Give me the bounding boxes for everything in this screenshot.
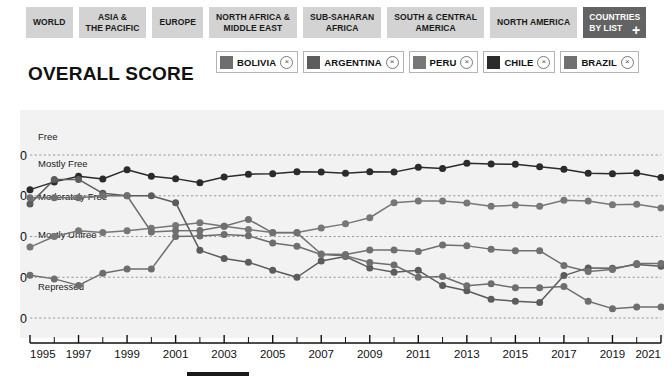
data-point [366, 214, 373, 221]
legend-country-label: PERU [430, 57, 457, 68]
band-label-free: Free [38, 131, 58, 142]
plus-icon[interactable]: + [632, 24, 640, 36]
data-point [391, 199, 398, 206]
data-point [293, 229, 300, 236]
y-tick-label: 50 [20, 271, 27, 285]
close-icon[interactable]: × [537, 56, 550, 69]
data-point [609, 170, 616, 177]
x-tick-label: 2021 [635, 348, 661, 360]
legend-color-swatch [413, 56, 426, 69]
data-point [585, 298, 592, 305]
data-point [124, 166, 131, 173]
data-point [585, 170, 592, 177]
data-point [51, 233, 58, 240]
legend-chip-chile[interactable]: CHILE× [483, 51, 555, 73]
data-point [512, 247, 519, 254]
y-tick-label: 70 [20, 189, 27, 203]
region-tab-label-line1: WORLD [33, 17, 66, 28]
data-point [75, 194, 82, 201]
region-tab-bar: WORLDASIA &THE PACIFICEUROPENORTH AFRICA… [26, 7, 646, 38]
x-tick-label: 2009 [357, 348, 383, 360]
data-point [536, 163, 543, 170]
data-point [366, 168, 373, 175]
data-point [172, 175, 179, 182]
data-point [536, 203, 543, 210]
x-tick-label: 1997 [66, 348, 92, 360]
data-point [99, 270, 106, 277]
series-peru [27, 197, 665, 251]
close-icon[interactable]: × [621, 56, 634, 69]
data-point [609, 266, 616, 273]
region-tab-label-line1: COUNTRIES [589, 12, 640, 23]
data-point [124, 266, 131, 273]
close-icon[interactable]: × [280, 56, 293, 69]
series-line [30, 196, 661, 272]
data-point [172, 227, 179, 234]
data-point [269, 229, 276, 236]
data-point [439, 198, 446, 205]
region-tab-world[interactable]: WORLD [26, 7, 73, 38]
data-point [75, 282, 82, 289]
close-icon[interactable]: × [460, 56, 473, 69]
data-point [293, 168, 300, 175]
data-point [439, 242, 446, 249]
region-tab-countries-by-list[interactable]: COUNTRIESBY LIST+ [583, 7, 646, 38]
legend-country-label: BRAZIL [581, 57, 616, 68]
data-point [245, 259, 252, 266]
data-point [366, 246, 373, 253]
data-point [245, 232, 252, 239]
data-point [124, 227, 131, 234]
legend-chip-peru[interactable]: PERU× [409, 51, 479, 73]
data-point [148, 229, 155, 236]
legend-color-swatch [487, 56, 500, 69]
data-point [415, 274, 422, 281]
data-point [318, 169, 325, 176]
data-point [488, 160, 495, 167]
data-point [318, 257, 325, 264]
data-point [27, 194, 34, 201]
region-tab-europe[interactable]: EUROPE [152, 7, 203, 38]
x-tick-label: 2001 [163, 348, 189, 360]
legend-country-label: CHILE [504, 57, 533, 68]
data-point [148, 266, 155, 273]
data-point [512, 161, 519, 168]
legend-chip-bolivia[interactable]: BOLIVIA× [216, 51, 298, 73]
data-point [342, 170, 349, 177]
data-point [221, 223, 228, 230]
data-point [439, 273, 446, 280]
region-tab-north-america[interactable]: NORTH AMERICA [490, 7, 577, 38]
region-tab-south-central-america[interactable]: SOUTH & CENTRALAMERICA [387, 7, 484, 38]
page-title: OVERALL SCORE [28, 63, 194, 85]
data-point [196, 227, 203, 234]
country-legend: BOLIVIA×ARGENTINA×PERU×CHILE×BRAZIL× [216, 51, 639, 73]
data-point [463, 200, 470, 207]
region-tab-label-line1: NORTH AFRICA & [216, 12, 290, 23]
scroll-indicator[interactable] [187, 372, 249, 376]
data-point [633, 260, 640, 267]
region-tab-label-line1: SUB-SAHARAN [310, 12, 374, 23]
data-point [27, 244, 34, 251]
data-point [609, 201, 616, 208]
region-tab-label-line1: SOUTH & CENTRAL [394, 12, 477, 23]
region-tab-sub-saharan-africa[interactable]: SUB-SAHARANAFRICA [303, 7, 381, 38]
close-icon[interactable]: × [386, 56, 399, 69]
legend-chip-brazil[interactable]: BRAZIL× [560, 51, 638, 73]
data-point [391, 246, 398, 253]
region-tab-label-line2: AMERICA [415, 23, 455, 34]
data-point [560, 197, 567, 204]
data-point [463, 282, 470, 289]
region-tab-north-africa-middle-east[interactable]: NORTH AFRICA &MIDDLE EAST [209, 7, 297, 38]
chart-x-axis: 1995199719992001200320052007200920112013… [0, 333, 672, 381]
region-tab-asia-pacific[interactable]: ASIA &THE PACIFIC [79, 7, 147, 38]
x-tick-label: 2017 [551, 348, 577, 360]
data-point [366, 259, 373, 266]
data-point [148, 192, 155, 199]
region-tab-label-line2: THE PACIFIC [86, 23, 140, 34]
data-point [221, 174, 228, 181]
series-chile [27, 160, 665, 193]
legend-chip-argentina[interactable]: ARGENTINA× [303, 51, 403, 73]
y-tick-label: 40 [20, 312, 27, 326]
data-point [463, 242, 470, 249]
y-tick-label: 80 [20, 149, 27, 163]
data-point [585, 268, 592, 275]
